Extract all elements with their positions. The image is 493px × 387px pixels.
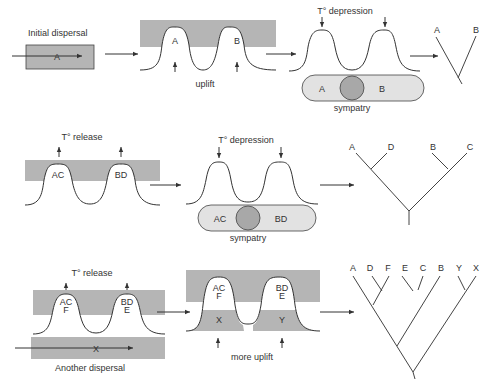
tree-tip-e: E <box>402 263 408 273</box>
tree-tip-a: A <box>434 25 440 35</box>
sympatry-taxon-ac: AC <box>214 214 227 224</box>
initial-dispersal-label: Initial dispersal <box>28 28 88 38</box>
tree-tip-d: D <box>388 142 395 152</box>
depression-label: T° depression <box>218 135 274 145</box>
row3-phylogeny: A D F E C B Y X <box>350 263 479 379</box>
tree-tip-f: F <box>385 263 391 273</box>
row3-release-dispersal: T° release AC F BD E X Another dispersal <box>15 268 165 373</box>
tree-tip-c: C <box>467 142 474 152</box>
sympatry-label: sympatry <box>230 233 267 243</box>
tree-tip-b: B <box>473 25 479 35</box>
sympatry-taxon-bd: BD <box>275 214 288 224</box>
sympatry-overlap-circle <box>236 206 260 230</box>
mountain-label-ac: AC <box>52 170 65 180</box>
depression-label: T° depression <box>317 6 373 16</box>
row1-initial-dispersal: Initial dispersal A <box>12 28 94 69</box>
mountain-label-e: E <box>124 305 130 315</box>
mountain-label-f: F <box>216 291 222 301</box>
sympatry-taxon-b: B <box>379 84 385 94</box>
tree-branches <box>436 36 476 84</box>
mountain-label-y: Y <box>279 315 285 325</box>
mountain-profile <box>186 162 318 204</box>
sympatry-taxon-a: A <box>319 84 325 94</box>
tree-tip-b: B <box>430 142 436 152</box>
another-dispersal-label: Another dispersal <box>55 363 125 373</box>
mountain-label-f: F <box>63 305 69 315</box>
more-uplift-label: more uplift <box>231 352 274 362</box>
tree-tip-a: A <box>349 142 355 152</box>
mountain-label-a: A <box>172 36 178 46</box>
tree-branches <box>353 276 476 379</box>
row3-more-uplift: AC F X BD E Y more uplift <box>186 270 320 362</box>
tree-tip-a: A <box>350 263 356 273</box>
mountain-label-x: X <box>216 315 222 325</box>
row1-depression-sympatry: T° depression A B sympatry <box>289 6 424 113</box>
mountain-label-bd: BD <box>115 170 128 180</box>
dispersal-taxon-x: X <box>93 344 99 354</box>
sympatry-overlap-circle <box>340 76 364 100</box>
tree-branches <box>356 153 467 225</box>
release-label: T° release <box>71 268 112 278</box>
row2-phylogeny: A D B C <box>349 142 474 225</box>
tree-tip-b: B <box>438 263 444 273</box>
dispersal-taxon: A <box>54 52 60 62</box>
tree-tip-c: C <box>420 263 427 273</box>
biogeography-diagram: Initial dispersal A A B uplift T° depres… <box>0 0 493 387</box>
mountain-profile <box>289 30 420 71</box>
row1-phylogeny: A B <box>434 25 479 84</box>
row2-depression-sympatry: T° depression AC BD sympatry <box>186 135 318 243</box>
row1-uplift-mountains: A B uplift <box>140 20 276 89</box>
tree-tip-x: X <box>473 263 479 273</box>
row2-release-mountains: T° release AC BD <box>25 132 160 205</box>
uplift-label: uplift <box>195 79 215 89</box>
mountain-label-b: B <box>234 36 240 46</box>
mountain-label-e: E <box>279 291 285 301</box>
sympatry-label: sympatry <box>334 103 371 113</box>
tree-tip-d: D <box>367 263 374 273</box>
release-label: T° release <box>61 132 102 142</box>
tree-tip-y: Y <box>456 263 462 273</box>
